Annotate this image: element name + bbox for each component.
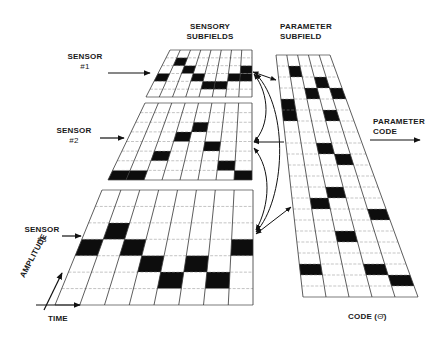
parameter-label-line2: SUBFIELD — [280, 32, 340, 42]
sensor2-grid — [108, 103, 252, 180]
filled-cell — [228, 74, 241, 82]
filled-cell — [201, 81, 215, 89]
parameter-label-line1: PARAMETER — [280, 22, 340, 32]
sensory-label-line2: SUBFIELDS — [180, 32, 240, 42]
filled-cell — [388, 275, 414, 286]
parameter-code-line1: PARAMETER — [373, 117, 433, 127]
filled-cell — [363, 264, 388, 275]
time-label: TIME — [48, 314, 88, 324]
filled-cell — [184, 256, 209, 272]
time-text: TIME — [48, 314, 68, 323]
sensor2-label-line1: SENSOR — [49, 126, 99, 136]
sensor1-label-line2: #1 — [60, 62, 110, 72]
parameter-code-label: PARAMETER CODE — [373, 117, 433, 137]
filled-cell — [240, 66, 252, 74]
filled-cell — [282, 110, 297, 121]
filled-cell — [231, 239, 253, 255]
filled-cell — [214, 81, 228, 89]
filled-cell — [217, 161, 235, 171]
sensor2-label: SENSOR #2 — [49, 126, 99, 146]
sensory-label-line1: SENSORY — [180, 22, 240, 32]
sensor1-label: SENSOR #1 — [60, 52, 110, 72]
code-text: CODE ( — [348, 312, 377, 321]
filled-cell — [157, 272, 183, 289]
sensor3-grid — [55, 190, 253, 305]
sensor1-label-line1: SENSOR — [60, 52, 110, 62]
filled-cell — [205, 272, 230, 289]
sensor2-label-line2: #2 — [49, 136, 99, 146]
sensor1-grid — [146, 50, 252, 97]
code-close-paren: ) — [384, 312, 387, 321]
filled-cell — [299, 264, 322, 275]
filled-cell — [203, 142, 220, 152]
sensory-subfields-title: SENSORY SUBFIELDS — [180, 22, 240, 42]
code-label: CODE (Θ̂) — [348, 312, 418, 322]
filled-cell — [192, 122, 209, 132]
filled-cell — [335, 231, 358, 242]
parameter-grid — [276, 55, 418, 297]
grids-layer — [55, 50, 418, 305]
parameter-subfield-title: PARAMETER SUBFIELD — [280, 22, 340, 42]
filled-cell — [234, 170, 252, 180]
filled-cell — [240, 74, 252, 82]
filled-cell — [310, 198, 330, 209]
filled-cell — [326, 187, 346, 198]
filled-cell — [281, 99, 296, 110]
parameter-code-line2: CODE — [373, 127, 433, 137]
